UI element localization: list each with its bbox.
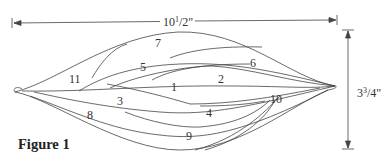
piece-label-11: 11 — [69, 73, 81, 85]
piece-label-4: 4 — [206, 107, 212, 119]
piece-label-1: 1 — [171, 81, 177, 93]
piece-label-5: 5 — [140, 61, 146, 73]
height-numerator: 3 — [363, 86, 367, 95]
piece-label-8: 8 — [87, 109, 93, 121]
height-label: 33/4" — [355, 85, 383, 99]
piece-label-2: 2 — [218, 73, 224, 85]
width-unit: " — [188, 15, 193, 29]
width-numerator: 1 — [175, 15, 179, 24]
height-dimension — [342, 30, 354, 149]
piece-label-7: 7 — [155, 37, 161, 49]
height-unit: " — [376, 86, 381, 100]
piece-label-9: 9 — [186, 130, 192, 142]
figure-caption: Figure 1 — [18, 136, 70, 153]
piece-label-10: 10 — [270, 93, 282, 105]
piece-label-3: 3 — [117, 95, 123, 107]
piece-label-6: 6 — [250, 57, 256, 69]
center-line — [22, 86, 335, 91]
width-label: 101/2" — [161, 14, 195, 28]
width-whole: 10 — [163, 15, 175, 29]
